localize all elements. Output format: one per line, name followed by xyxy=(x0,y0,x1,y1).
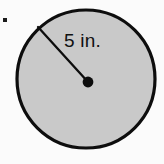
item-bullet-marker xyxy=(3,18,7,22)
circle-diagram-svg: 5 in. xyxy=(0,0,164,164)
center-point-dot xyxy=(83,77,94,88)
geometry-figure: 5 in. xyxy=(0,0,164,164)
radius-length-label: 5 in. xyxy=(64,30,101,51)
